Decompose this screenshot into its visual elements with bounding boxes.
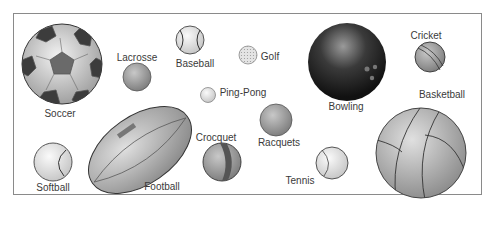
basketball-icon xyxy=(376,108,466,200)
softball-icon xyxy=(34,143,72,181)
label-racquets: Racquets xyxy=(258,137,300,148)
label-crocquet: Crocquet xyxy=(196,132,237,143)
tennis-ball-icon xyxy=(316,147,348,179)
soccer-ball-icon xyxy=(20,24,104,106)
label-cricket: Cricket xyxy=(410,30,441,41)
label-tennis: Tennis xyxy=(286,175,315,186)
label-basketball: Basketball xyxy=(419,89,465,100)
label-lacrosse: Lacrosse xyxy=(117,52,158,63)
baseball-icon xyxy=(176,26,204,54)
label-baseball: Baseball xyxy=(176,58,214,69)
label-soccer: Soccer xyxy=(44,108,75,119)
crocquet-ball-icon xyxy=(203,143,241,181)
label-golf: Golf xyxy=(261,51,279,62)
football-icon xyxy=(73,89,207,208)
racquets-ball-icon xyxy=(260,104,292,136)
lacrosse-ball-icon xyxy=(123,63,151,91)
label-bowling: Bowling xyxy=(328,101,363,112)
label-football: Football xyxy=(144,181,180,192)
bowling-ball-icon xyxy=(308,23,386,101)
label-ping-pong: Ping-Pong xyxy=(220,87,267,98)
label-softball: Softball xyxy=(36,182,69,193)
cricket-ball-icon xyxy=(415,42,445,72)
ping-pong-ball-icon xyxy=(201,88,216,103)
golf-ball-icon xyxy=(239,46,257,64)
